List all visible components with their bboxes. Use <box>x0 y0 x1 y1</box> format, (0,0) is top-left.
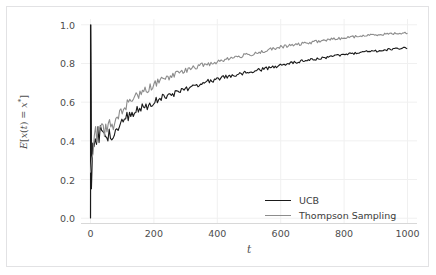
legend-label: UCB <box>299 195 319 206</box>
y-tick-label: 0.6 <box>60 97 75 108</box>
y-axis-tick-labels: 0.00.20.40.60.81.0 <box>41 19 75 224</box>
y-tick-label: 0.0 <box>60 213 75 224</box>
x-tick-label: 800 <box>335 228 353 239</box>
legend-item[interactable]: Thompson Sampling <box>265 208 425 223</box>
x-tick-label: 0 <box>87 228 93 239</box>
legend-label: Thompson Sampling <box>299 210 396 221</box>
x-tick-label: 600 <box>272 228 290 239</box>
y-tick-label: 1.0 <box>60 19 75 30</box>
y-tick-label: 0.4 <box>60 135 75 146</box>
legend: UCBThompson Sampling <box>265 193 425 223</box>
y-axis-label-body: [x(t) = x*] <box>18 95 29 142</box>
x-tick-label: 400 <box>208 228 226 239</box>
y-axis-label: E[x(t) = x*] <box>15 19 31 224</box>
legend-item[interactable]: UCB <box>265 193 425 208</box>
figure-card: 0.00.20.40.60.81.0 E[x(t) = x*] 02004006… <box>6 6 429 267</box>
y-tick-label: 0.8 <box>60 58 75 69</box>
x-axis-tick-labels: 02004006008001000 <box>81 228 417 242</box>
y-tick-label: 0.2 <box>60 174 75 185</box>
y-axis-label-expectation: E <box>18 141 29 148</box>
x-axis-label: t <box>81 243 417 255</box>
legend-line-swatch <box>265 200 291 201</box>
x-tick-label: 1000 <box>395 228 419 239</box>
x-tick-label: 200 <box>145 228 163 239</box>
legend-line-swatch <box>265 215 291 216</box>
